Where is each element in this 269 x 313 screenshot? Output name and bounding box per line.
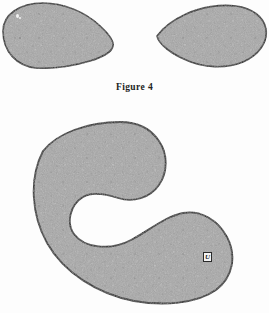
teardrop-blob-left: [3, 3, 113, 68]
teardrop-blob-right: [157, 5, 266, 66]
figure-shapes-canvas: [0, 0, 269, 313]
figure-caption: Figure 4: [0, 82, 269, 92]
shape-label-u: U: [203, 252, 212, 262]
figure-sheet: Figure 4 U: [0, 0, 269, 313]
crescent-c-shape: [34, 122, 233, 303]
